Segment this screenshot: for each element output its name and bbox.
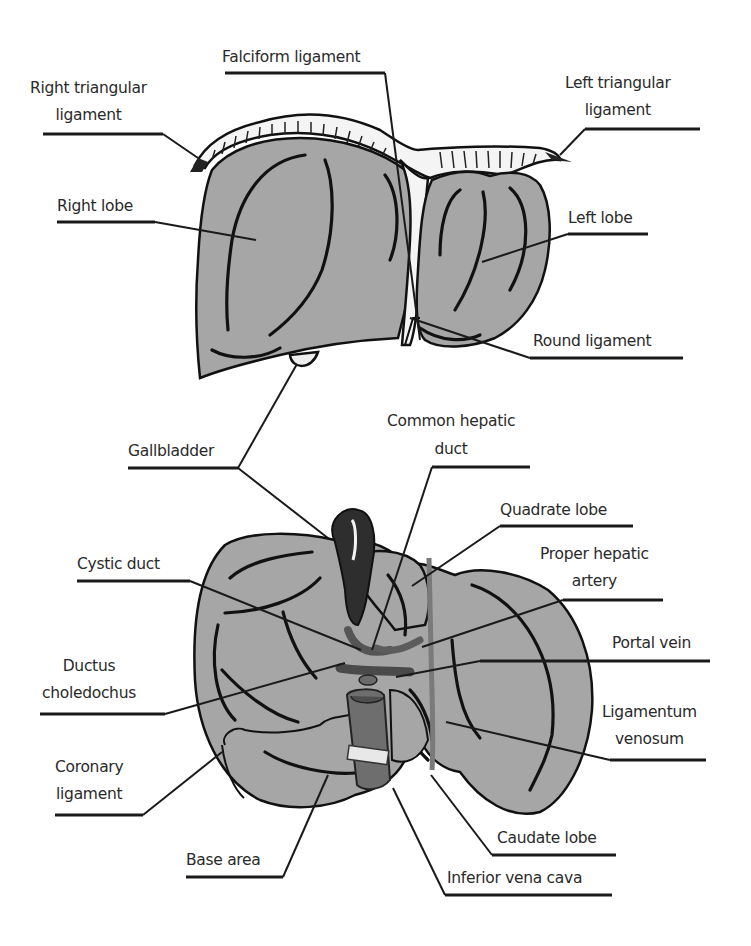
portal-vein-shape: [340, 668, 410, 672]
label-round-ligament: Round ligament: [533, 332, 651, 351]
liver-diagram: [0, 0, 751, 946]
gallbladder-fundus: [290, 352, 318, 366]
label-right-triangular-ligament: Right triangular ligament: [30, 79, 147, 125]
label-right-lobe: Right lobe: [57, 197, 133, 216]
label-left-triangular-ligament: Left triangular ligament: [565, 74, 671, 120]
label-ligamentum-venosum: Ligamentum venosum: [602, 703, 697, 749]
label-falciform-ligament: Falciform ligament: [222, 48, 360, 67]
label-proper-hepatic-artery: Proper hepatic artery: [540, 545, 649, 591]
anterior-view-liver: [190, 114, 572, 378]
label-base-area: Base area: [186, 851, 261, 870]
label-cystic-duct: Cystic duct: [77, 555, 160, 574]
label-portal-vein: Portal vein: [612, 634, 691, 653]
label-quadrate-lobe: Quadrate lobe: [500, 501, 607, 520]
label-common-hepatic-duct: Common hepatic duct: [387, 412, 515, 459]
label-ductus-choledochus: Ductus choledochus: [42, 657, 136, 703]
label-caudate-lobe: Caudate lobe: [497, 829, 597, 848]
label-gallbladder: Gallbladder: [128, 442, 214, 461]
label-inferior-vena-cava: Inferior vena cava: [447, 869, 582, 888]
label-coronary-ligament: Coronary ligament: [55, 758, 123, 804]
label-left-lobe: Left lobe: [568, 209, 633, 228]
